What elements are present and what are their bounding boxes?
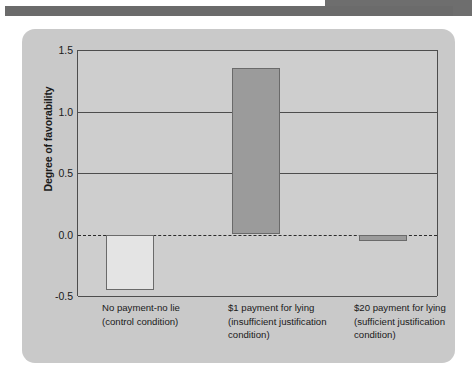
gridline [78, 296, 437, 297]
gridline [78, 50, 437, 51]
x-axis-category-label-line: (sufficient justification [354, 315, 446, 329]
x-axis-category-label: $1 payment for lying(insufficient justif… [228, 301, 326, 342]
x-axis-category-label-line: $1 payment for lying [228, 301, 326, 315]
x-axis-category-label-line: condition) [228, 328, 326, 342]
x-axis-category-label-line: No payment-no lie [102, 301, 180, 315]
bar [359, 235, 407, 241]
x-axis-category-label: No payment-no lie(control condition) [102, 301, 180, 328]
figure-panel: Degree of favorability 1.51.00.50.0-0.5 … [22, 29, 455, 363]
y-axis-tick-label: -0.5 [55, 290, 73, 302]
x-axis-category-label-line: $20 payment for lying [354, 301, 446, 315]
bar [232, 68, 280, 234]
y-axis-tick-label: 1.5 [58, 44, 73, 56]
y-axis-tick-label: 1.0 [58, 106, 73, 118]
x-axis-category-label-line: (control condition) [102, 315, 180, 329]
bar [106, 235, 154, 290]
y-axis-tick-label: 0.5 [58, 167, 73, 179]
plot-area: 1.51.00.50.0-0.5 [77, 50, 438, 296]
x-axis-category-label-line: condition) [354, 328, 446, 342]
x-axis-category-label-line: (insufficient justification [228, 315, 326, 329]
y-axis-tick-label: 0.0 [58, 229, 73, 241]
y-axis-title: Degree of favorability [42, 69, 54, 209]
x-axis-category-label: $20 payment for lying(sufficient justifi… [354, 301, 446, 342]
header-accent-bar [5, 6, 453, 16]
